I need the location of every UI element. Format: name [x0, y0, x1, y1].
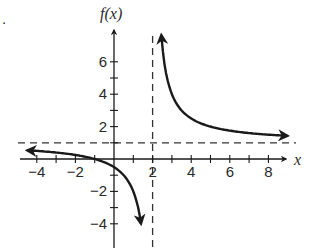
- asymptotes: [18, 36, 296, 248]
- x-tick-label: −2: [67, 163, 84, 180]
- x-tick-label: 8: [264, 163, 272, 180]
- x-tick-label: 6: [226, 163, 234, 180]
- x-axis-label: x: [293, 151, 301, 168]
- left-branch-curve: [27, 150, 141, 224]
- function-curves: [27, 35, 288, 224]
- y-axis-label: f(x): [100, 5, 122, 23]
- x-tick-label: 4: [187, 163, 195, 180]
- y-tick-label: −4: [90, 215, 107, 232]
- y-tick-label: 6: [99, 53, 107, 70]
- y-tick-label: −2: [90, 182, 107, 199]
- problem-marker: .: [2, 10, 6, 27]
- right-branch-curve: [161, 35, 287, 136]
- x-tick-label: −4: [28, 163, 45, 180]
- x-tick-label: 2: [148, 163, 156, 180]
- y-tick-label: 2: [99, 118, 107, 135]
- y-tick-label: 4: [99, 85, 107, 102]
- rational-function-graph: . −4−22468642−2−4 f(x) x: [0, 0, 316, 250]
